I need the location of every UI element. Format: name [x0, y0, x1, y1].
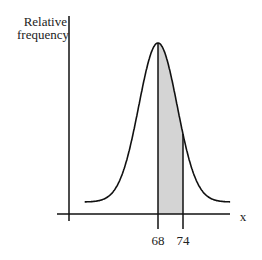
- x-axis-label: x: [240, 209, 247, 224]
- normal-curve-chart: 6874 Relative frequency x: [0, 0, 262, 260]
- x-tick-label-68: 68: [152, 233, 165, 248]
- x-tick-label-74: 74: [177, 233, 191, 248]
- y-axis-label-line2: frequency: [17, 27, 69, 42]
- shaded-region: [158, 43, 183, 214]
